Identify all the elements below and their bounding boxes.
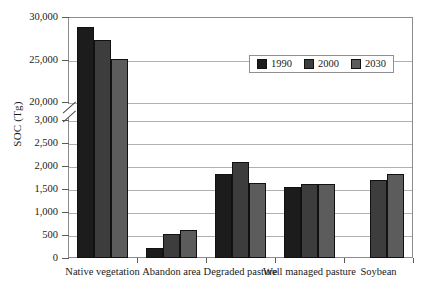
- legend-label: 2030: [365, 59, 386, 69]
- bar-group: [68, 17, 137, 258]
- x-tick: [413, 258, 414, 263]
- y-tick-label: 2,000: [2, 161, 58, 171]
- legend-swatch: [304, 59, 314, 69]
- legend-swatch: [351, 59, 361, 69]
- y-tick-label: 25,000: [2, 55, 58, 65]
- bar: [232, 162, 249, 258]
- legend-swatch: [257, 59, 267, 69]
- bar: [284, 187, 301, 258]
- bar-group: [275, 17, 344, 258]
- legend-entry: 2030: [351, 59, 386, 69]
- bar: [370, 180, 387, 258]
- y-tick-label: 0: [2, 253, 58, 263]
- bar-group: [137, 17, 206, 258]
- x-axis-label: Soybean: [331, 266, 427, 279]
- bar: [180, 230, 197, 258]
- bar: [215, 174, 232, 258]
- y-tick-label: 2,500: [2, 138, 58, 148]
- bar: [318, 184, 335, 258]
- y-tick-label: 1,500: [2, 184, 58, 194]
- bar-group: [344, 17, 413, 258]
- bar: [249, 183, 266, 258]
- y-tick-label: 1,000: [2, 207, 58, 217]
- x-tick: [344, 258, 345, 263]
- chart-legend: 199020002030: [249, 55, 394, 73]
- y-tick-label: 500: [2, 230, 58, 240]
- bar: [163, 234, 180, 258]
- legend-entry: 1990: [257, 59, 292, 69]
- y-tick-label: 20,000: [2, 97, 58, 107]
- bar: [387, 174, 404, 258]
- legend-entry: 2000: [304, 59, 339, 69]
- soc-bar-chart: SOC (Tg) 30,00025,00020,0003,0002,5002,0…: [0, 0, 427, 302]
- y-tick: [62, 258, 69, 259]
- bar: [111, 59, 128, 258]
- bars-layer: [68, 17, 413, 258]
- bar-group: [206, 17, 275, 258]
- legend-label: 2000: [318, 59, 339, 69]
- bar: [94, 40, 111, 258]
- bar: [77, 27, 94, 258]
- x-tick: [206, 258, 207, 263]
- x-tick: [137, 258, 138, 263]
- x-tick: [275, 258, 276, 263]
- bar: [301, 184, 318, 258]
- legend-label: 1990: [271, 59, 292, 69]
- y-tick-label: 3,000: [2, 115, 58, 125]
- y-tick-label: 30,000: [2, 12, 58, 22]
- bar: [146, 248, 163, 258]
